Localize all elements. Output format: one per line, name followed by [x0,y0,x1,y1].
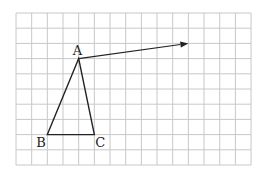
triangle-shape [47,59,94,135]
vertex-label-b: B [36,135,46,150]
arrowhead-icon [180,42,188,48]
translation-vector [79,42,189,59]
grid-lines [16,13,251,165]
vertex-label-c: C [95,135,105,150]
vertex-label-a: A [72,43,83,58]
triangle-abc [47,59,94,135]
grid-diagram: A B C [0,0,263,175]
